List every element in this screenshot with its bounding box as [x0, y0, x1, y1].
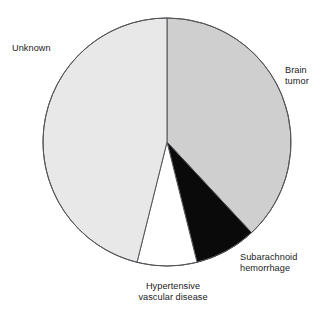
pie-slice-group [43, 18, 291, 266]
pie-label-subarachnoid-hemorrhage: Subarachnoid hemorrhage [240, 252, 297, 275]
pie-label-unknown: Unknown [12, 43, 51, 54]
pie-label-hypertensive-vascular-disease: Hypertensive vascular disease [118, 281, 228, 304]
pie-chart: Unknown Brain tumor Subarachnoid hemorrh… [0, 0, 335, 316]
pie-label-brain-tumor: Brain tumor [285, 65, 309, 88]
